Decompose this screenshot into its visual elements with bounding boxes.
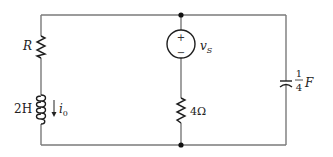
resistor-zigzag-icon (177, 98, 185, 123)
capacitor-frac-num: 1 (296, 68, 302, 79)
resistor-4-label: 4Ω (190, 105, 206, 118)
capacitor-frac-den: 4 (296, 82, 302, 93)
voltage-source: + − vS (167, 30, 213, 58)
resistor-r: R (22, 36, 45, 58)
top-node-dot (178, 12, 183, 17)
resistor-4-ohm: 4Ω (177, 98, 206, 123)
wires (41, 15, 286, 145)
capacitor: 1 4 F (280, 68, 314, 93)
resistor-r-label: R (22, 39, 32, 53)
resistor-zigzag-icon (37, 36, 45, 58)
inductor-coil-icon (37, 95, 46, 124)
capacitor-unit: F (304, 76, 314, 90)
current-arrow-down-icon (52, 112, 57, 117)
inductor-value-label: 2H (14, 102, 32, 116)
minus-sign: − (177, 47, 185, 58)
plus-sign: + (177, 32, 185, 43)
current-label: i0 (59, 102, 68, 118)
inductor: 2H i0 (14, 95, 68, 124)
voltage-source-label: vS (200, 39, 213, 55)
circuit-diagram: R 2H i0 + − vS 4Ω 1 4 F (0, 0, 333, 157)
bottom-node-dot (178, 142, 183, 147)
